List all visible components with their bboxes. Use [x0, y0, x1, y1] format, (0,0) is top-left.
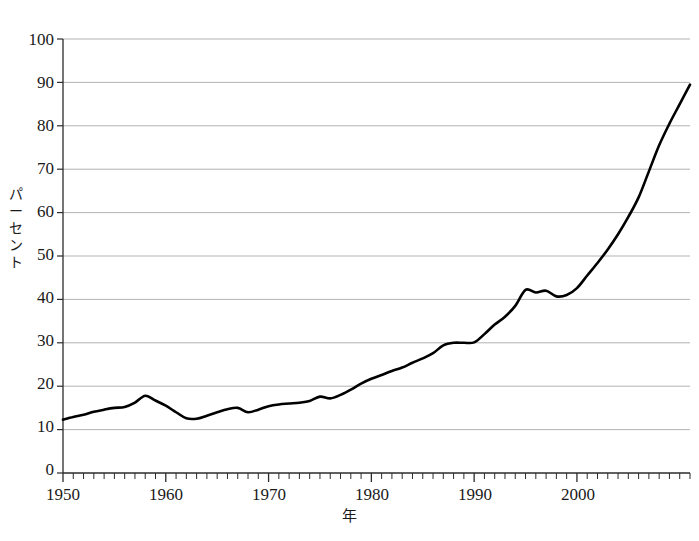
chart-figure: パ ー セ ン ト 年 100 90 80 70 60 50 40 30 20 … [0, 0, 699, 541]
plot-area [0, 0, 699, 541]
data-series-line [63, 85, 690, 420]
gridlines [63, 39, 690, 430]
y-ticks [57, 39, 63, 473]
